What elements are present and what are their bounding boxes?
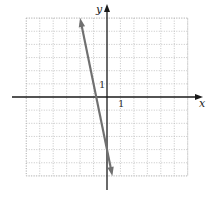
y-tick-label-1: 1 xyxy=(99,79,105,90)
y-axis-arrow-icon xyxy=(104,4,110,12)
y-axis-label: y xyxy=(95,3,103,16)
x-tick-label-1: 1 xyxy=(118,98,124,109)
line-arrow-top-icon xyxy=(79,18,85,27)
x-axis-label: x xyxy=(199,97,206,110)
line-arrow-bottom-icon xyxy=(107,166,113,175)
coordinate-graph: x y 1 1 xyxy=(0,0,211,202)
